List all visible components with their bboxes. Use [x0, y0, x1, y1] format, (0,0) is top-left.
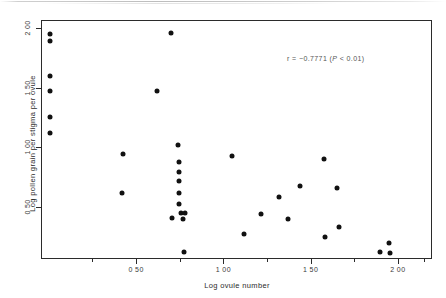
plot-frame-top	[41, 20, 432, 21]
data-point	[176, 142, 181, 147]
data-point	[154, 89, 159, 94]
plot-frame-right	[431, 20, 432, 259]
data-point	[378, 250, 383, 255]
data-point	[47, 88, 52, 93]
plot-frame-left	[41, 20, 42, 259]
data-point	[169, 31, 174, 36]
data-point	[47, 131, 52, 136]
data-point	[176, 170, 181, 175]
correlation-annotation: r = −0.7771 (P < 0.01)	[287, 55, 365, 62]
scan-edge-artifact-secondary	[38, 3, 338, 4]
data-point	[322, 234, 327, 239]
data-point	[335, 186, 340, 191]
data-point	[241, 232, 246, 237]
data-point	[388, 250, 393, 255]
x-tick-major	[311, 259, 312, 264]
x-tick-minor	[354, 259, 355, 262]
scatter-plot-figure: 0 501 001 502 00 0 501 001 502 00 r = −0…	[0, 0, 446, 298]
data-point	[277, 194, 282, 199]
plot-frame-bottom	[41, 258, 432, 259]
annotation-tail: < 0.01)	[337, 55, 364, 62]
y-tick-major	[36, 207, 41, 208]
x-tick-minor	[180, 259, 181, 262]
y-tick-label: 2 00	[24, 21, 31, 36]
data-point	[336, 225, 341, 230]
x-tick-major	[398, 259, 399, 264]
data-point	[259, 211, 264, 216]
data-point	[177, 159, 182, 164]
data-point	[47, 31, 52, 36]
data-point	[297, 184, 302, 189]
y-axis-title: Log pollen grain per stigma per ovule	[28, 59, 37, 229]
x-tick-major	[136, 259, 137, 264]
data-point	[386, 241, 391, 246]
data-point	[176, 191, 181, 196]
x-tick-minor	[424, 259, 425, 262]
scan-edge-artifact	[0, 1, 446, 2]
x-tick-label: 2 00	[390, 266, 405, 273]
data-point	[286, 217, 291, 222]
y-tick-major	[36, 28, 41, 29]
y-tick-major	[36, 88, 41, 89]
data-point	[47, 114, 52, 119]
data-point	[121, 152, 126, 157]
data-point	[177, 201, 182, 206]
x-tick-minor	[92, 259, 93, 262]
x-tick-label: 0 50	[128, 266, 143, 273]
data-point	[322, 156, 327, 161]
data-point	[182, 250, 187, 255]
x-axis-title: Log ovule number	[204, 281, 270, 290]
x-tick-major	[223, 259, 224, 264]
data-point	[119, 190, 124, 195]
x-tick-label: 1 00	[216, 266, 231, 273]
data-point	[181, 216, 186, 221]
data-point	[183, 210, 188, 215]
y-tick-major	[36, 147, 41, 148]
data-point	[176, 179, 181, 184]
x-tick-label: 1 50	[303, 266, 318, 273]
data-point	[47, 73, 52, 78]
annotation-stat: r = −0.7771 (	[287, 55, 332, 62]
data-point	[230, 154, 235, 159]
data-point	[47, 39, 52, 44]
data-point	[170, 216, 175, 221]
x-tick-minor	[267, 259, 268, 262]
